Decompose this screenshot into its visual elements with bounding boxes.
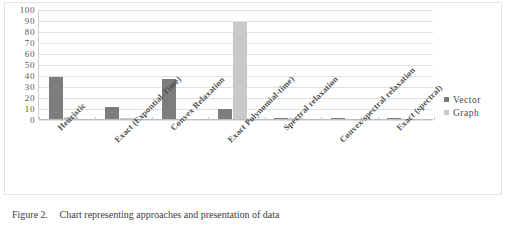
legend-item: Vector (444, 93, 481, 106)
bar-group (152, 10, 208, 119)
y-tick-label: 20 (25, 93, 35, 103)
bar-group (39, 10, 95, 119)
bar-chart: 0102030405060708090100 (38, 10, 433, 120)
plot-area: 0102030405060708090100 (38, 10, 433, 120)
y-tick-label: 90 (25, 16, 35, 26)
y-tick-label: 50 (25, 60, 35, 70)
bar-graph (233, 22, 247, 119)
bar-vector (331, 118, 345, 119)
bar-group (95, 10, 151, 119)
caption-text: Chart representing approaches and presen… (60, 209, 280, 220)
figure-2-chart-image: 0102030405060708090100 HeuristicExact (E… (0, 0, 515, 228)
x-axis-tick (434, 117, 435, 120)
bar-vector (274, 118, 288, 119)
legend-label: Graph (453, 108, 479, 118)
y-tick-label: 80 (25, 27, 35, 37)
square-swatch-icon (444, 97, 449, 102)
y-tick-label: 100 (20, 5, 35, 15)
bar-graph (289, 118, 303, 119)
y-tick-label: 40 (25, 71, 35, 81)
bar-group (378, 10, 434, 119)
caption-number: Figure 2. (12, 209, 48, 220)
gridline (39, 120, 433, 121)
bar-graph (120, 118, 134, 119)
y-tick-label: 0 (30, 115, 35, 125)
figure-caption: Figure 2. Chart representing approaches … (12, 209, 280, 220)
bar-vector (162, 79, 176, 119)
legend-label: Vector (453, 95, 481, 105)
y-tick-label: 60 (25, 49, 35, 59)
chart-legend: VectorGraph (444, 93, 481, 119)
bar-vector (387, 118, 401, 119)
y-tick-label: 10 (25, 104, 35, 114)
bar-graph (64, 117, 78, 119)
legend-item: Graph (444, 106, 481, 119)
bar-group (321, 10, 377, 119)
y-tick-label: 30 (25, 82, 35, 92)
bar-group (265, 10, 321, 119)
bar-group (208, 10, 264, 119)
bar-vector (49, 77, 63, 119)
square-swatch-icon (444, 110, 449, 115)
bar-vector (105, 107, 119, 119)
y-tick-label: 70 (25, 38, 35, 48)
bar-vector (218, 109, 232, 119)
